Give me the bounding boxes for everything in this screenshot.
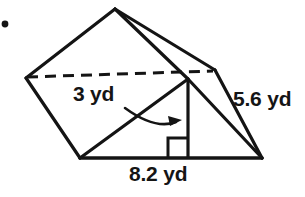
edge-apex-to-front-apex xyxy=(115,9,188,79)
curved-arrow-head-icon xyxy=(168,116,182,126)
bullet-point-icon xyxy=(2,21,9,28)
right-angle-marker-icon xyxy=(168,138,188,158)
edge-left-vertex-to-bottom-left xyxy=(26,78,80,158)
curved-arrow-icon xyxy=(125,108,176,124)
slant-height-label: 3 yd xyxy=(73,82,114,106)
edge-apex-to-rear-right-vertex xyxy=(115,9,215,70)
lateral-edge-label: 5.6 yd xyxy=(233,87,291,111)
geometry-figure: 3 yd 5.6 yd 8.2 yd xyxy=(0,0,305,197)
base-length-label: 8.2 yd xyxy=(129,162,187,186)
edge-apex-to-left-vertex xyxy=(26,9,115,78)
